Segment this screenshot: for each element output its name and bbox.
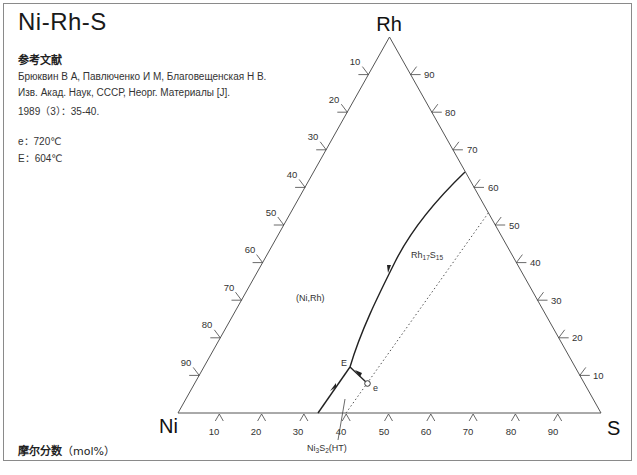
- svg-text:30: 30: [308, 131, 319, 142]
- svg-text:30: 30: [551, 295, 562, 306]
- svg-text:10: 10: [209, 426, 220, 437]
- svg-text:70: 70: [463, 426, 474, 437]
- svg-text:10: 10: [593, 370, 604, 381]
- svg-text:70: 70: [224, 282, 235, 293]
- svg-text:40: 40: [287, 169, 298, 180]
- svg-text:90: 90: [181, 357, 192, 368]
- right-edge-ticks: [411, 67, 590, 376]
- point-label-e: e: [373, 383, 378, 393]
- phase-label-ni3s2-ht: Ni3S2(HT): [307, 443, 347, 454]
- univariant-curve-ni3s2: [318, 367, 350, 413]
- univariant-curve-rh17s15: [350, 172, 465, 367]
- svg-text:80: 80: [506, 426, 517, 437]
- svg-text:60: 60: [488, 182, 499, 193]
- svg-text:50: 50: [509, 220, 520, 231]
- bottom-edge-ticks: [215, 414, 561, 421]
- svg-text:60: 60: [421, 426, 432, 437]
- left-edge-tick-labels: 10 20 30 40 50 60 70 80 90: [181, 56, 361, 368]
- svg-text:70: 70: [467, 144, 478, 155]
- svg-text:90: 90: [424, 69, 435, 80]
- svg-text:20: 20: [251, 426, 262, 437]
- vertex-label-s: S: [607, 417, 620, 439]
- ternary-triangle: [178, 37, 601, 413]
- vertex-label-rh: Rh: [376, 13, 402, 35]
- svg-text:80: 80: [202, 319, 213, 330]
- right-edge-tick-labels: 90 80 70 60 50 40 30 20 10: [424, 69, 604, 381]
- point-label-E: E: [341, 358, 347, 368]
- svg-text:90: 90: [548, 426, 559, 437]
- phase-label-rh17s15: Rh17S15: [411, 250, 443, 261]
- ternary-diagram: Rh Ni S 10 20 30 40 50 60 70 80 90 90: [0, 0, 637, 475]
- phase-label-ni-rh: (Ni,Rh): [296, 293, 325, 303]
- svg-text:20: 20: [329, 94, 340, 105]
- invariant-point-e-marker: [365, 381, 371, 387]
- vertex-label-ni: Ni: [159, 415, 178, 437]
- bottom-edge-tick-labels: 10 20 30 40 50 60 70 80 90: [209, 426, 559, 437]
- svg-text:40: 40: [336, 426, 347, 437]
- left-edge-ticks: [189, 67, 368, 376]
- svg-text:20: 20: [572, 332, 583, 343]
- svg-text:50: 50: [379, 426, 390, 437]
- svg-text:10: 10: [350, 56, 361, 67]
- svg-text:50: 50: [266, 207, 277, 218]
- arrow-icon-curve-up: [330, 383, 336, 391]
- svg-text:60: 60: [245, 244, 256, 255]
- line-e-to-E: [350, 367, 367, 383]
- svg-text:40: 40: [530, 257, 541, 268]
- svg-text:80: 80: [445, 107, 456, 118]
- svg-text:30: 30: [293, 426, 304, 437]
